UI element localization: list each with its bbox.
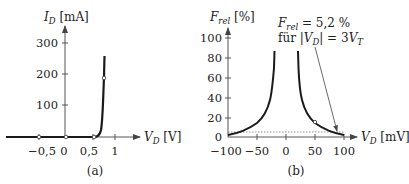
x-tick-a-neg05: −0,5 xyxy=(28,144,56,158)
y-tick-a-100: 100 xyxy=(36,98,58,112)
marker-a-neg05 xyxy=(37,135,41,139)
x-tick-a-1: 1 xyxy=(111,144,118,158)
y-axis-label-b: Frel [%] xyxy=(209,10,255,26)
marker-a-0 xyxy=(64,135,68,139)
x-axis-label-a: VD [V] xyxy=(144,130,181,146)
x-tick-b-0: 0 xyxy=(282,144,289,158)
annotation-line2: für |VD| = 3VT xyxy=(278,31,364,47)
x-tick-a-0: 0 xyxy=(60,144,67,158)
y-tick-b-80: 80 xyxy=(207,51,222,65)
y-tick-a-200: 200 xyxy=(36,67,58,81)
x-tick-b-50: 50 xyxy=(308,144,323,158)
panel-label-a: (a) xyxy=(87,164,104,178)
chart-b: 100 80 60 40 20 0 −100 −50 0 50 100 Frel… xyxy=(200,10,409,178)
chart-a: 300 200 100 −0,5 0 0,5 1 ID [mA] VD [V] … xyxy=(6,10,181,178)
panel-label-b: (b) xyxy=(287,164,304,178)
x-axis-label-b: VD [mV] xyxy=(361,130,409,146)
x-tick-b-neg100: −100 xyxy=(210,144,242,158)
figure: 300 200 100 −0,5 0 0,5 1 ID [mA] VD [V] … xyxy=(0,0,409,184)
y-tick-b-0: 0 xyxy=(215,130,222,144)
x-tick-b-neg50: −50 xyxy=(245,144,269,158)
y-axis-label-a: ID [mA] xyxy=(43,10,89,26)
curve-right xyxy=(298,51,344,135)
annotation-arrow xyxy=(315,47,337,131)
y-tick-b-100: 100 xyxy=(200,31,222,45)
y-tick-a-300: 300 xyxy=(36,36,58,50)
annotation-line1: Frel = 5,2 % xyxy=(277,16,350,32)
curve-left xyxy=(228,51,275,135)
y-tick-b-40: 40 xyxy=(207,91,222,105)
marker-a-06 xyxy=(92,135,96,139)
x-tick-b-100: 100 xyxy=(333,144,355,158)
y-tick-b-60: 60 xyxy=(207,71,222,85)
marker-b xyxy=(313,120,316,123)
marker-a-top xyxy=(102,76,106,80)
y-tick-b-20: 20 xyxy=(207,111,222,125)
x-tick-a-05: 0,5 xyxy=(80,144,98,158)
